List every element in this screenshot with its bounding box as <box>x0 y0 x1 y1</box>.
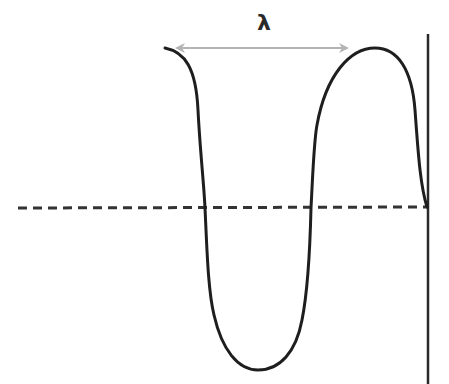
wave-curve <box>165 48 427 370</box>
wavelength-label: λ <box>252 10 276 36</box>
equilibrium-axis <box>18 207 428 208</box>
wave-diagram <box>0 0 449 384</box>
